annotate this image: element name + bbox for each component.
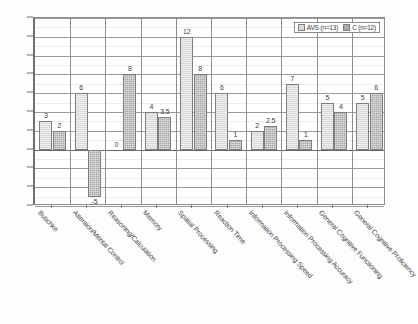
bar-c[interactable]: [299, 140, 312, 149]
y-axis-tick-mark: [27, 148, 33, 149]
bar-value-label: 6: [366, 84, 387, 91]
bar-group: 56: [352, 18, 387, 204]
bar-avs[interactable]: [75, 93, 88, 149]
x-axis-tick-mark: [156, 205, 157, 208]
bar-c[interactable]: [370, 93, 383, 149]
x-axis-tick-mark: [121, 205, 122, 208]
bar-value-label: 6: [211, 84, 232, 91]
x-axis-tick-mark: [86, 205, 87, 208]
bar-c[interactable]: [123, 74, 136, 149]
x-axis-tick-mark: [367, 205, 368, 208]
bar-c[interactable]: [53, 131, 66, 150]
x-axis-tick-mark: [262, 205, 263, 208]
bar-group: 71: [281, 18, 316, 204]
bar-c[interactable]: [229, 140, 242, 149]
bar-group: 6-5: [70, 18, 105, 204]
bar-avs[interactable]: [145, 112, 158, 150]
bar-group: 61: [211, 18, 246, 204]
bar-value-label: 8: [119, 65, 140, 72]
bar-value-label: 5: [317, 94, 338, 101]
y-axis-tick-mark: [27, 73, 33, 74]
x-axis-tick-mark: [297, 205, 298, 208]
bar-c[interactable]: [334, 112, 347, 150]
x-axis: BuschkeAttention/Mental ControlReasoning…: [33, 205, 385, 324]
bar-group: 32: [35, 18, 70, 204]
bar-value-label: 6: [71, 84, 92, 91]
x-axis-tick-mark: [227, 205, 228, 208]
bar-avs[interactable]: [180, 37, 193, 150]
y-axis-tick-mark: [27, 129, 33, 130]
bar-c[interactable]: [158, 117, 171, 150]
bar-avs[interactable]: [286, 84, 299, 150]
y-axis: 14121086420-2-4-6: [0, 0, 33, 324]
x-axis-tick-label: Buschke: [36, 209, 59, 233]
bar-value-label: -5: [84, 198, 105, 205]
legend-label-c: C (n=12): [352, 24, 376, 31]
bar-avs[interactable]: [356, 103, 369, 150]
bar-value-label: 2.5: [260, 117, 281, 124]
chart-legend: AVS (n=13) C (n=12): [294, 22, 380, 33]
y-axis-tick-mark: [27, 54, 33, 55]
legend-swatch-avs: [298, 24, 305, 31]
y-axis-tick-mark: [27, 17, 33, 18]
bar-value-label: 3: [35, 112, 56, 119]
legend-label-avs: AVS (n=13): [307, 24, 338, 31]
legend-entry-c: C (n=12): [343, 24, 376, 31]
bar-group: 128: [176, 18, 211, 204]
legend-entry-avs: AVS (n=13): [298, 24, 338, 31]
bar-avs[interactable]: [215, 93, 228, 149]
y-axis-tick-mark: [27, 186, 33, 187]
bar-value-label: 7: [282, 75, 303, 82]
bar-value-label: 4: [330, 103, 351, 110]
bar-group: 43.5: [141, 18, 176, 204]
bar-value-label: 2: [49, 122, 70, 129]
y-axis-tick-mark: [27, 111, 33, 112]
bar-value-label: 1: [225, 131, 246, 138]
y-axis-tick-mark: [27, 92, 33, 93]
bar-value-label: 3.5: [154, 108, 175, 115]
x-axis-tick-mark: [332, 205, 333, 208]
y-axis-tick-mark: [27, 35, 33, 36]
bar-group: 08: [105, 18, 140, 204]
bar-c[interactable]: [88, 150, 101, 197]
bar-value-label: 8: [190, 65, 211, 72]
y-axis-tick-mark: [27, 167, 33, 168]
bar-value-label: 12: [176, 28, 197, 35]
x-axis-tick-mark: [51, 205, 52, 208]
bar-avs[interactable]: [251, 131, 264, 150]
bar-group: 22.5: [246, 18, 281, 204]
bar-value-label: 1: [295, 131, 316, 138]
x-axis-tick-label: Reaction Time: [212, 209, 246, 245]
x-axis-tick-label: Information Processing Accuracy: [283, 209, 354, 285]
legend-swatch-c: [343, 24, 350, 31]
bar-group: 54: [317, 18, 352, 204]
x-axis-tick-mark: [191, 205, 192, 208]
plot-area: 326-50843.51286122.5715456 AVS (n=13) C …: [33, 17, 385, 205]
x-axis-tick-label: General Cognitive Functioning: [318, 209, 384, 279]
x-axis-tick-label: General Cognitive Proficiency: [353, 209, 418, 278]
bar-c[interactable]: [264, 126, 277, 150]
x-axis-tick-label: Memory: [142, 209, 164, 232]
bar-c[interactable]: [194, 74, 207, 149]
x-axis-tick-label: Spatial Processing: [177, 209, 220, 254]
x-axis-tick-label: Information Processing Speed: [248, 209, 314, 279]
